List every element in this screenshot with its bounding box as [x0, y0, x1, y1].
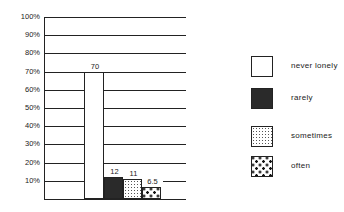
y-tick-label: 60%	[10, 86, 40, 94]
legend-label: often	[291, 161, 310, 170]
y-tick-label: 40%	[10, 122, 40, 130]
gridline	[44, 53, 186, 54]
bar-never-lonely	[84, 72, 104, 199]
y-tick-label: 80%	[10, 49, 40, 57]
bar-value-label: 11	[123, 169, 144, 178]
y-tick-label: 70%	[10, 68, 40, 76]
gridline	[44, 126, 186, 127]
bar-sometimes	[123, 179, 142, 199]
swatch-white-icon	[251, 56, 273, 77]
gridline	[44, 72, 186, 73]
legend-label: rarely	[291, 93, 313, 102]
y-tick-label: 90%	[10, 31, 40, 39]
gridline	[44, 90, 186, 91]
gridline	[44, 17, 186, 18]
y-axis-line	[44, 17, 45, 199]
bar-rarely	[104, 177, 123, 199]
gridline	[44, 163, 186, 164]
x-axis-line	[44, 199, 186, 200]
bar-value-label: 12	[104, 167, 125, 176]
bar-value-label: 70	[84, 62, 106, 71]
bar-value-label: 6.5	[142, 177, 163, 186]
y-tick-label: 50%	[10, 104, 40, 112]
y-tick-label: 100%	[10, 13, 40, 21]
swatch-dark-icon	[251, 88, 273, 109]
y-tick-label: 30%	[10, 140, 40, 148]
bar-often	[142, 187, 161, 199]
gridline	[44, 35, 186, 36]
gridline	[44, 108, 186, 109]
y-tick-label: 10%	[10, 177, 40, 185]
gridline	[44, 144, 186, 145]
y-tick-label: 20%	[10, 159, 40, 167]
swatch-stipple-icon	[251, 126, 273, 147]
swatch-dots-icon	[251, 156, 273, 177]
legend-label: never lonely	[291, 61, 338, 70]
legend-label: sometimes	[291, 131, 332, 140]
